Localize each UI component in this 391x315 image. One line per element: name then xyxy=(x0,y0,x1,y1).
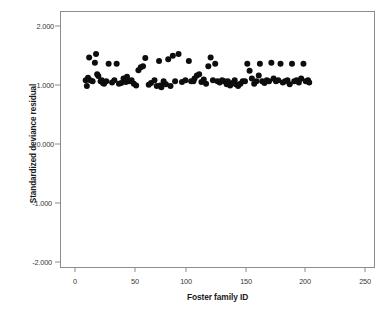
data-point xyxy=(278,61,284,67)
data-point xyxy=(151,77,157,83)
y-axis-ticks xyxy=(55,26,60,262)
data-point xyxy=(103,78,109,84)
data-point xyxy=(205,63,211,69)
data-point xyxy=(172,78,178,84)
plot-frame xyxy=(61,12,375,268)
data-point xyxy=(300,61,306,67)
data-point xyxy=(242,78,248,84)
data-points-layer xyxy=(83,51,312,90)
data-point xyxy=(86,54,92,60)
data-point xyxy=(168,83,174,89)
data-point xyxy=(142,55,148,61)
data-point xyxy=(208,54,214,60)
data-point xyxy=(257,61,263,67)
plot-canvas xyxy=(0,0,391,315)
data-point xyxy=(289,61,295,67)
data-point xyxy=(156,58,162,64)
data-point xyxy=(84,83,90,89)
data-point xyxy=(256,73,262,79)
data-point xyxy=(93,51,99,57)
data-point xyxy=(196,71,202,77)
data-point xyxy=(90,78,96,84)
data-point xyxy=(106,61,112,67)
data-point xyxy=(140,63,146,69)
data-point xyxy=(182,77,188,83)
data-point xyxy=(186,58,192,64)
data-point xyxy=(253,78,259,84)
data-point xyxy=(247,68,253,74)
data-point xyxy=(176,51,182,57)
data-point xyxy=(92,60,98,66)
data-point xyxy=(244,61,250,67)
data-point xyxy=(133,82,139,88)
data-point xyxy=(306,79,312,85)
data-point xyxy=(212,61,218,67)
scatter-plot-figure: Standardized deviance residual Foster fa… xyxy=(0,0,391,315)
data-point xyxy=(114,61,120,67)
data-point xyxy=(203,81,209,87)
data-point xyxy=(268,60,274,66)
data-point xyxy=(170,53,176,59)
